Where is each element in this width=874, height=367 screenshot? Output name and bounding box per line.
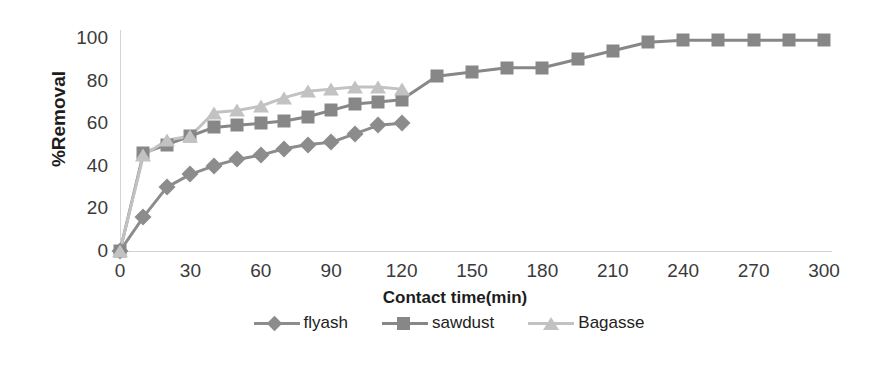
data-point-sawdust	[372, 95, 385, 108]
data-point-sawdust	[231, 119, 244, 132]
data-point-bagasse	[276, 91, 292, 104]
data-point-sawdust	[712, 34, 725, 47]
data-point-sawdust	[254, 117, 267, 130]
data-point-sawdust	[606, 44, 619, 57]
x-tick-label: 210	[597, 260, 629, 282]
data-point-bagasse	[370, 80, 386, 93]
data-point-bagasse	[135, 149, 151, 162]
data-point-bagasse	[229, 104, 245, 117]
legend-label: Bagasse	[578, 313, 644, 333]
data-point-sawdust	[782, 34, 795, 47]
data-point-bagasse	[347, 80, 363, 93]
x-tick-label: 300	[808, 260, 840, 282]
data-point-sawdust	[348, 98, 361, 111]
data-point-bagasse	[394, 83, 410, 96]
y-tick-label: 40	[87, 155, 108, 177]
data-point-sawdust	[430, 70, 443, 83]
x-axis-line	[120, 251, 832, 252]
data-point-sawdust	[301, 110, 314, 123]
y-tick-label: 20	[87, 197, 108, 219]
chart-legend: flyashsawdustBagasse	[0, 313, 874, 333]
x-tick-label: 120	[386, 260, 418, 282]
legend-label: sawdust	[432, 313, 494, 333]
data-point-bagasse	[206, 106, 222, 119]
x-tick-label: 150	[456, 260, 488, 282]
legend-item-bagasse[interactable]: Bagasse	[528, 313, 644, 333]
data-point-sawdust	[325, 104, 338, 117]
legend-label: flyash	[304, 313, 348, 333]
legend-marker-triangle-icon	[528, 315, 574, 331]
legend-item-sawdust[interactable]: sawdust	[382, 313, 494, 333]
legend-item-flyash[interactable]: flyash	[254, 313, 348, 333]
x-tick-label: 180	[527, 260, 559, 282]
data-point-sawdust	[501, 61, 514, 74]
data-point-bagasse	[300, 85, 316, 98]
data-point-sawdust	[747, 34, 760, 47]
legend-marker-diamond-icon	[254, 315, 300, 331]
data-point-sawdust	[466, 66, 479, 79]
y-tick-label: 80	[87, 70, 108, 92]
data-point-sawdust	[536, 61, 549, 74]
x-tick-label: 240	[667, 260, 699, 282]
x-tick-label: 270	[738, 260, 770, 282]
chart-container: %Removal 020406080100 030609012015018021…	[0, 0, 874, 367]
data-point-bagasse	[182, 129, 198, 142]
plot-area	[120, 38, 824, 251]
data-point-bagasse	[112, 245, 128, 258]
data-point-sawdust	[278, 115, 291, 128]
data-point-bagasse	[253, 100, 269, 113]
data-point-sawdust	[642, 36, 655, 49]
data-point-sawdust	[207, 121, 220, 134]
data-point-sawdust	[818, 34, 831, 47]
data-point-sawdust	[571, 53, 584, 66]
y-axis-tick-labels: 020406080100	[50, 0, 108, 367]
y-tick-label: 60	[87, 112, 108, 134]
x-tick-label: 0	[115, 260, 126, 282]
x-tick-label: 90	[321, 260, 342, 282]
data-point-sawdust	[677, 34, 690, 47]
x-tick-label: 30	[180, 260, 201, 282]
x-axis-title: Contact time(min)	[0, 288, 874, 308]
y-tick-label: 0	[97, 240, 108, 262]
y-tick-label: 100	[76, 27, 108, 49]
data-point-bagasse	[323, 83, 339, 96]
legend-marker-square-icon	[382, 315, 428, 331]
data-point-bagasse	[159, 134, 175, 147]
x-tick-label: 60	[250, 260, 271, 282]
